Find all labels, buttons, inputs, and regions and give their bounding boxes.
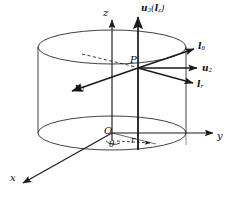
axis-y-label: y [217,131,223,141]
vector-u1-label: u1 [75,83,85,93]
angle-theta-label: θ [109,140,114,149]
vector-u1-subscript: 1 [82,86,86,92]
dashed-radius-top [82,54,136,67]
vector-l-r-label: lr [197,80,203,90]
vector-l-r [138,68,193,83]
point-p-label: P [130,55,137,65]
origin-label: O [104,126,112,136]
radius-r-label: r [131,136,135,145]
axis-z-label: z [103,8,108,18]
vector-l-theta-subscript: θ [201,45,204,51]
figure-canvas: z y x O P u3(lz) u1 u2 lθ lr θ r [0,0,230,197]
vector-u3-paren-close: ) [161,3,165,13]
vector-u2-label: u2 [202,64,212,74]
vector-l-r-subscript: r [200,83,203,89]
cylindrical-coordinate-diagram [0,0,230,197]
vector-u2-subscript: 2 [209,67,213,73]
vector-u3-label: u3(lz) [141,4,165,14]
axis-x-label: x [10,173,16,183]
vector-l-theta-label: lθ [198,42,205,52]
axis-x [23,133,112,183]
